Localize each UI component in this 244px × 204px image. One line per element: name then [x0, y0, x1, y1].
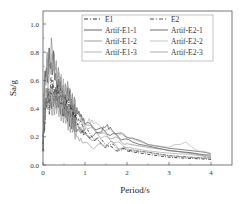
y-tick-label: 1.0	[30, 21, 39, 29]
legend-label: Artif-E1-3	[105, 48, 137, 57]
legend-label: Artif-E2-1	[171, 26, 203, 35]
x-tick-label: 2	[125, 169, 129, 177]
x-tick-label: 0	[41, 169, 45, 177]
legend-label: Artif-E2-3	[171, 48, 203, 57]
y-axis-title: Sa/g	[8, 80, 18, 97]
legend: E1Artif-E1-1Artif-E1-2Artif-E1-3E2Artif-…	[82, 15, 213, 61]
y-tick-label: 0.2	[30, 133, 39, 141]
y-tick-label: 0.0	[30, 162, 39, 170]
response-spectrum-chart: 01234 0.00.20.40.60.81.0 Period/s Sa/g E…	[0, 0, 244, 204]
x-tick-label: 4	[209, 169, 213, 177]
x-tick-label: 3	[167, 169, 171, 177]
legend-label: Artif-E1-1	[105, 26, 137, 35]
legend-label: E1	[105, 15, 114, 24]
x-tick-label: 1	[83, 169, 87, 177]
x-axis-title: Period/s	[120, 185, 150, 195]
legend-label: E2	[171, 15, 180, 24]
y-tick-label: 0.8	[30, 49, 39, 57]
y-tick-label: 0.6	[30, 77, 39, 85]
legend-label: Artif-E1-2	[105, 37, 137, 46]
y-tick-label: 0.4	[30, 105, 39, 113]
legend-label: Artif-E2-2	[171, 37, 203, 46]
